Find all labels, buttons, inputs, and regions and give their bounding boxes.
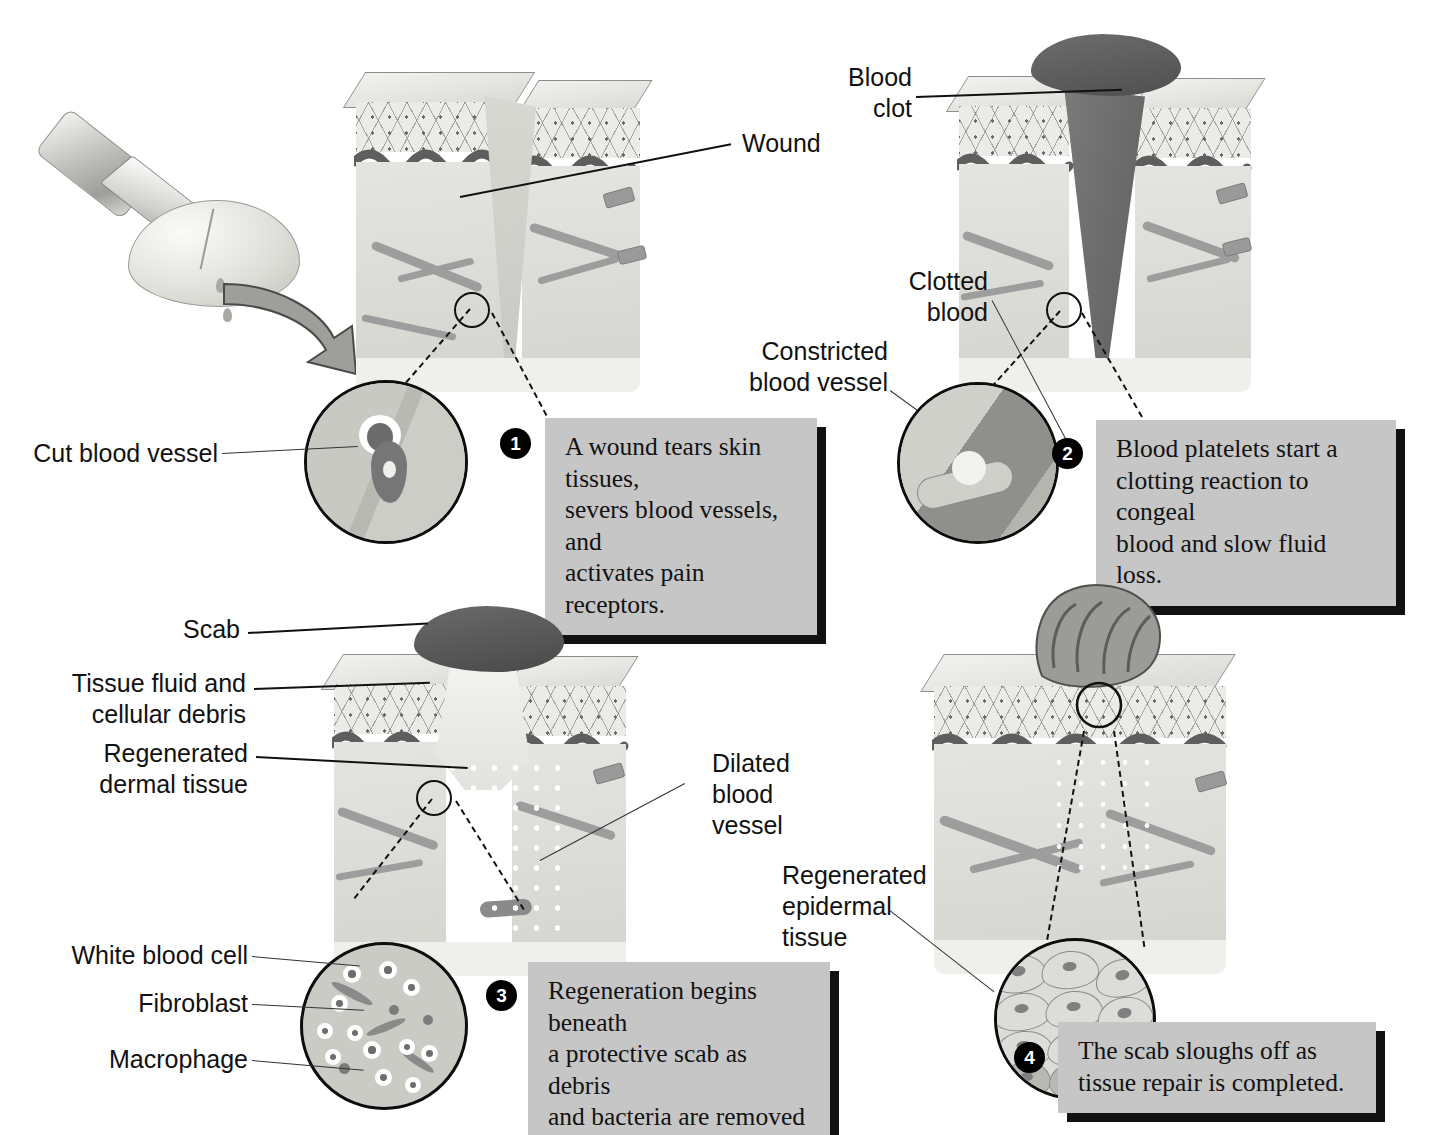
white-blood-cell [421,1045,438,1062]
panel-4-caption-box: The scab sloughs off as tissue repair is… [1058,1022,1376,1113]
label-cut-blood-vessel: Cut blood vessel [12,438,218,469]
panel-4: Regenerated epidermal tissue 4 The scab … [700,570,1430,1135]
white-blood-cell [347,1025,363,1041]
panel-3-badge: 3 [486,980,517,1011]
inset-origin-circle [1074,680,1124,730]
white-blood-cell [399,1039,415,1055]
epidermal-cell [1039,948,1101,992]
panel-1-badge: 1 [500,428,531,459]
white-blood-cell [403,979,420,996]
panel-2: Blood clot Clotted blood Constricted blo… [700,0,1430,545]
panel-4-badge: 4 [1014,1042,1045,1073]
white-blood-cell [379,961,397,979]
inset-constricted-vessel [897,382,1059,544]
label-white-blood-cell: White blood cell [58,940,248,971]
label-regenerated-dermal-tissue: Regenerated dermal tissue [82,738,248,800]
white-blood-cell [343,965,361,983]
label-regenerated-epidermal-tissue: Regenerated epidermal tissue [782,860,962,953]
white-blood-cell [375,1069,392,1086]
white-blood-cell [363,1041,381,1059]
white-blood-cell [325,1049,341,1065]
fibroblast-cell [365,1015,407,1038]
label-fibroblast: Fibroblast [78,988,248,1019]
label-clotted-blood: Clotted blood [808,266,988,328]
inset-wound-cells [300,942,468,1110]
white-blood-cell [405,1077,421,1093]
panel-2-badge: 2 [1052,438,1083,469]
inset-origin-circle [1044,290,1084,330]
granulation-cells [442,758,564,938]
macrophage-cell [389,1005,399,1015]
label-tissue-fluid-and-cellular-debris: Tissue fluid and cellular debris [60,668,246,730]
scalpel-cutting-finger-illustration [20,40,350,360]
label-blood-clot: Blood clot [808,62,912,124]
scab-leader-line [248,623,428,634]
white-blood-cell [317,1023,333,1039]
inset-cut-vessel [304,380,468,544]
surface-clot-mass [1031,34,1181,96]
skin-block-clotted [955,62,1255,392]
label-scab: Scab [128,614,240,645]
sloughing-scab [1024,580,1174,690]
residual-granulation [1048,752,1160,872]
label-constricted-blood-vessel: Constricted blood vessel [722,336,888,398]
macrophage-cell [423,1015,433,1025]
inset-origin-circle [452,290,492,330]
scab-mass [414,606,564,672]
inset-origin-circle [414,778,454,818]
panel-4-caption-text: The scab sloughs off as tissue repair is… [1058,1022,1376,1113]
skin-block-regenerating [330,638,630,978]
skin-block-wounded [352,62,642,392]
label-macrophage: Macrophage [68,1044,248,1075]
